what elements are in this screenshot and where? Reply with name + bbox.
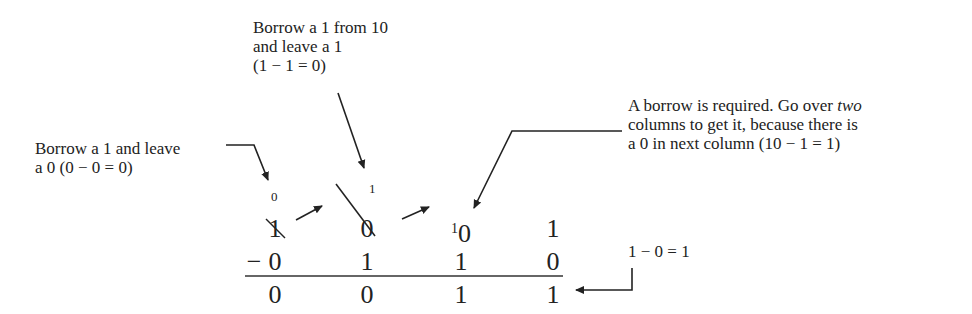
diagram-lines bbox=[0, 0, 972, 314]
arrow-left-label bbox=[226, 145, 268, 180]
arrow-right-label bbox=[474, 131, 622, 208]
strike-col2 bbox=[336, 184, 375, 236]
arrow-col1-to-col2 bbox=[296, 206, 322, 220]
arrow-bottom-right bbox=[576, 268, 632, 290]
arrow-top-label bbox=[338, 93, 364, 168]
arrow-col2-to-col3 bbox=[402, 207, 429, 219]
strike-col1 bbox=[266, 219, 285, 238]
